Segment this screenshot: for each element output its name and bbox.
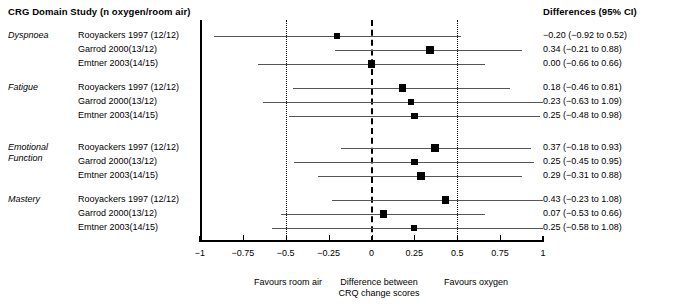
domain-label-emotional-function: Function [8, 153, 43, 164]
forest-plot-figure: CRG Domain Study (n oxygen/room air) Dif… [0, 0, 673, 306]
domain-label-emotional-function: Emotional [8, 142, 48, 153]
study-label: Rooyackers 1997 (12/12) [78, 194, 179, 204]
favours-oxygen-caption: Favours oxygen [444, 277, 508, 288]
x-tick [500, 235, 501, 240]
x-tick [329, 235, 330, 240]
x-tick-label: 0.5 [451, 248, 464, 258]
confidence-interval-line [263, 102, 543, 103]
x-tick [372, 235, 373, 240]
x-tick-label: 1 [540, 248, 545, 258]
x-tick-label: −0.25 [317, 248, 340, 258]
point-estimate-marker [334, 33, 340, 39]
x-tick-label: −0.5 [277, 248, 295, 258]
point-estimate-marker [411, 225, 417, 231]
plot-area [200, 20, 543, 242]
x-tick-label: 0 [369, 248, 374, 258]
x-tick [457, 235, 458, 240]
x-tick-label: 0.75 [491, 248, 509, 258]
study-label: Emtner 2003(14/15) [78, 110, 158, 120]
point-estimate-marker [417, 172, 425, 180]
reference-line-neg0p5 [286, 20, 287, 242]
x-tick-label: 0.25 [406, 248, 424, 258]
study-label: Emtner 2003(14/15) [78, 222, 158, 232]
ci-value: 0.34 (−0.21 to 0.88) [543, 44, 622, 54]
point-estimate-marker [431, 144, 439, 152]
ci-value: 0.00 (−0.66 to 0.66) [543, 58, 622, 68]
study-label: Garrod 2000(13/12) [78, 156, 157, 166]
point-estimate-marker [408, 99, 414, 105]
study-label: Emtner 2003(14/15) [78, 170, 158, 180]
x-axis-caption: Difference between CRQ change scores [338, 277, 419, 299]
ci-value: 0.07 (−0.53 to 0.66) [543, 208, 622, 218]
x-tick [243, 235, 244, 240]
study-label: Rooyackers 1997 (12/12) [78, 82, 179, 92]
ci-value: 0.43 (−0.23 to 1.08) [543, 194, 622, 204]
favours-room-air-caption: Favours room air [254, 277, 322, 288]
point-estimate-marker [411, 159, 418, 166]
confidence-interval-line [332, 200, 543, 201]
x-tick [542, 236, 544, 242]
ci-value: 0.29 (−0.31 to 0.88) [543, 170, 622, 180]
domain-label-fatigue: Fatigue [8, 82, 38, 93]
x-axis-caption-line1: Difference between [338, 277, 419, 288]
x-tick [414, 235, 415, 240]
study-label: Garrod 2000(13/12) [78, 208, 157, 218]
domain-label-dyspnoea: Dyspnoea [8, 30, 49, 41]
ci-value: 0.37 (−0.18 to 0.93) [543, 142, 622, 152]
point-estimate-marker [411, 113, 417, 119]
x-tick [286, 235, 287, 240]
point-estimate-marker [368, 60, 375, 67]
left-column-header: CRG Domain Study (n oxygen/room air) [8, 6, 191, 17]
study-label: Garrod 2000(13/12) [78, 44, 157, 54]
study-label: Emtner 2003(14/15) [78, 58, 158, 68]
ci-value: 0.18 (−0.46 to 0.81) [543, 82, 622, 92]
point-estimate-marker [426, 46, 434, 54]
zero-effect-line [371, 20, 373, 242]
ci-value: −0.20 (−0.92 to 0.52) [543, 30, 627, 40]
y-axis-line [200, 20, 202, 242]
x-tick [199, 236, 201, 242]
study-label: Rooyackers 1997 (12/12) [78, 30, 179, 40]
ci-value: 0.23 (−0.63 to 1.09) [543, 96, 622, 106]
x-tick-label: −0.75 [231, 248, 254, 258]
point-estimate-marker [399, 84, 406, 91]
x-axis-caption-line2: CRQ change scores [338, 288, 419, 299]
study-label: Rooyackers 1997 (12/12) [78, 142, 179, 152]
point-estimate-marker [442, 196, 449, 203]
ci-value: 0.25 (−0.45 to 0.95) [543, 156, 622, 166]
ci-column-header: Differences (95% CI) [543, 6, 637, 17]
confidence-interval-line [272, 228, 543, 229]
domain-label-mastery: Mastery [8, 194, 40, 205]
ci-value: 0.25 (−0.58 to 1.08) [543, 222, 622, 232]
point-estimate-marker [380, 210, 388, 218]
study-label: Garrod 2000(13/12) [78, 96, 157, 106]
x-tick-label: −1 [195, 248, 205, 258]
reference-line-0p5 [457, 20, 458, 242]
ci-value: 0.25 (−0.48 to 0.98) [543, 110, 622, 120]
